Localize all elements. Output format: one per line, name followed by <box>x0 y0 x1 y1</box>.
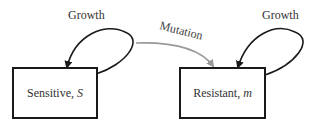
node-resistant-label: Resistant, <box>193 86 240 101</box>
node-sensitive-label: Sensitive, <box>27 86 74 101</box>
node-resistant: Resistant, m <box>179 67 266 119</box>
node-resistant-variable: m <box>243 86 252 101</box>
node-sensitive: Sensitive, S <box>12 67 98 119</box>
mutation-arrow <box>136 43 213 66</box>
node-sensitive-variable: S <box>77 86 83 101</box>
growth-label-sensitive: Growth <box>68 8 105 23</box>
growth-label-resistant: Growth <box>262 8 299 23</box>
